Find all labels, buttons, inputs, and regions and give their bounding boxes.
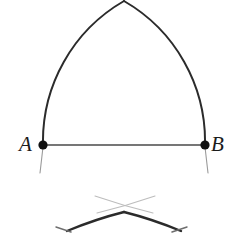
left-arc-path — [43, 1, 124, 145]
pointed-arch-arcs — [43, 1, 205, 145]
tail-below-b-line — [205, 147, 208, 173]
pointed-arch-diagram — [0, 0, 243, 240]
figure-canvas: A B — [0, 0, 243, 240]
construction-tails — [40, 147, 208, 173]
point-a-label: A — [19, 134, 32, 155]
right-arc-path — [124, 1, 205, 145]
point-a-dot — [38, 140, 47, 149]
point-b-label: B — [211, 134, 224, 155]
lower-arch-left-stroke — [67, 212, 124, 231]
lower-partial-arch — [56, 212, 187, 232]
lower-construction-cross — [95, 196, 155, 213]
tail-below-a-line — [40, 147, 43, 173]
point-b-dot — [200, 140, 209, 149]
construction-arc-right-path — [97, 196, 155, 213]
lower-arch-right-stroke — [124, 212, 181, 231]
construction-arc-left-path — [95, 196, 153, 213]
